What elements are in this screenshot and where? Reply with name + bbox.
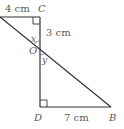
label-7cm: 7 cm: [64, 112, 89, 123]
label-point-b: B: [108, 112, 116, 123]
right-angle-marker-d: [40, 100, 47, 107]
right-angle-marker-c: [33, 17, 40, 24]
label-point-o: O: [29, 45, 37, 56]
label-3cm: 3 cm: [46, 27, 71, 38]
geometry-diagram: 4 cm C 3 cm x O y D 7 cm B: [0, 0, 124, 129]
label-angle-y: y: [41, 55, 48, 65]
label-angle-x: x: [31, 34, 36, 44]
label-point-d: D: [33, 112, 42, 123]
label-point-c: C: [38, 3, 46, 14]
label-4cm: 4 cm: [5, 3, 30, 14]
